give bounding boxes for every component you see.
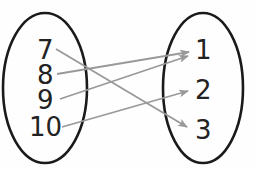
domain-item-9: 9 xyxy=(37,85,54,115)
range-item-1: 1 xyxy=(195,35,212,65)
arrow-10-to-2 xyxy=(62,91,188,127)
domain-item-10: 10 xyxy=(29,112,62,142)
range-item-2: 2 xyxy=(195,75,212,105)
arrow-7-to-3 xyxy=(56,49,187,127)
range-item-3: 3 xyxy=(195,115,212,145)
mapping-diagram: 7 8 9 10 1 2 3 xyxy=(0,0,255,169)
